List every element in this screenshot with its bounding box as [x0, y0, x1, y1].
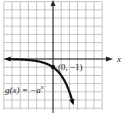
- y-axis-arrow-icon: [51, 0, 56, 6]
- point-marker: [51, 65, 55, 69]
- function-label: g(x) = −ax: [5, 84, 44, 95]
- point-label: (0, −1): [58, 62, 83, 72]
- curve-left-arrow-icon: [5, 56, 11, 61]
- function-label-base: g(x) = −a: [5, 85, 41, 95]
- function-label-exponent: x: [40, 84, 44, 90]
- exponential-graph: (0, −1) x g(x) = −ax: [0, 0, 124, 116]
- x-axis-label: x: [116, 54, 121, 64]
- x-axis-arrow-icon: [106, 57, 113, 62]
